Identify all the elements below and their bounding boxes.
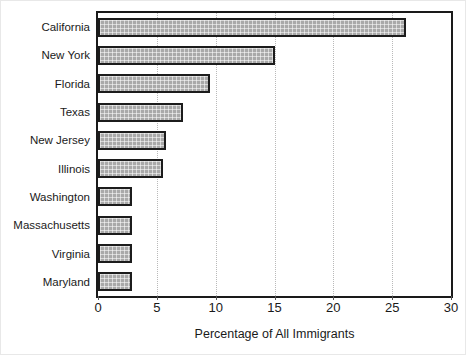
bar-row — [98, 126, 451, 154]
bar-row — [98, 183, 451, 211]
bar-row — [98, 268, 451, 296]
bar — [98, 159, 163, 178]
bar-row — [98, 70, 451, 98]
x-tick-label: 20 — [326, 300, 340, 316]
y-axis-label-virginia: Virginia — [1, 248, 90, 260]
bar — [98, 216, 132, 235]
x-tick-label: 10 — [208, 300, 222, 316]
y-axis-label-new-jersey: New Jersey — [1, 134, 90, 146]
x-axis-title: Percentage of All Immigrants — [96, 327, 453, 341]
x-tick-label: 5 — [153, 300, 160, 316]
bar — [98, 131, 166, 150]
bar — [98, 103, 183, 122]
x-tick-label: 30 — [444, 300, 458, 316]
x-tick-label: 25 — [385, 300, 399, 316]
x-tick-label: 15 — [267, 300, 281, 316]
bar — [98, 74, 210, 93]
bar — [98, 18, 406, 37]
bars-layer — [98, 13, 451, 296]
bar-row — [98, 41, 451, 69]
x-axis-ticks: 051015202530 — [96, 300, 453, 318]
y-axis-label-maryland: Maryland — [1, 276, 90, 288]
bar-row — [98, 239, 451, 267]
plot-area — [96, 11, 453, 298]
y-axis-label-new-york: New York — [1, 49, 90, 61]
y-axis-label-texas: Texas — [1, 106, 90, 118]
bar-row — [98, 98, 451, 126]
y-axis-category-labels: CaliforniaNew YorkFloridaTexasNew Jersey… — [1, 11, 90, 298]
y-axis-label-california: California — [1, 21, 90, 33]
y-axis-label-illinois: Illinois — [1, 163, 90, 175]
bar-row — [98, 13, 451, 41]
y-axis-label-massachusetts: Massachusetts — [1, 219, 90, 231]
y-axis-label-florida: Florida — [1, 78, 90, 90]
x-tick-label: 0 — [94, 300, 101, 316]
bar — [98, 272, 132, 291]
y-axis-label-washington: Washington — [1, 191, 90, 203]
bar — [98, 46, 275, 65]
bar — [98, 187, 132, 206]
bar — [98, 244, 132, 263]
bar-row — [98, 211, 451, 239]
bar-row — [98, 155, 451, 183]
bar-chart: CaliforniaNew YorkFloridaTexasNew Jersey… — [0, 0, 466, 355]
